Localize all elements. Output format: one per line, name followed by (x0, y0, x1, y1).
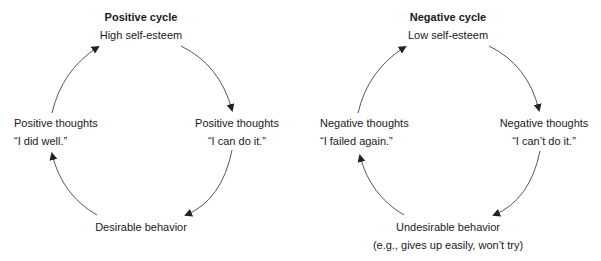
node-negative-thoughts-left: Negative thoughts “I failed again.” (320, 116, 409, 148)
node-low-self-esteem: Low self-esteem (408, 28, 488, 42)
node-positive-thoughts-left: Positive thoughts “I did well.” (14, 116, 98, 148)
node-positive-thoughts-right: Positive thoughts “I can do it.” (195, 116, 279, 148)
positive-cycle-title: Positive cycle (105, 10, 178, 24)
node-high-self-esteem: High self-esteem (100, 28, 183, 42)
node-undesirable-behavior: Undesirable behavior (e.g., gives up eas… (373, 220, 523, 252)
positive-cycle: Positive cycle High self-esteem Positive… (0, 0, 300, 261)
negative-cycle-title: Negative cycle (410, 10, 486, 24)
negative-cycle: Negative cycle Low self-esteem Negative … (300, 0, 601, 261)
node-negative-thoughts-right: Negative thoughts “I can’t do it.” (500, 116, 589, 148)
node-desirable-behavior: Desirable behavior (95, 220, 187, 234)
